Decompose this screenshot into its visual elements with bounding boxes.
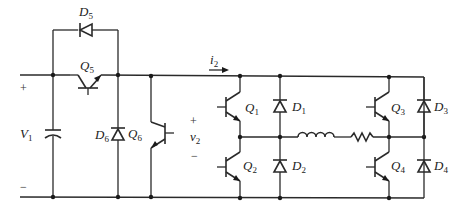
transistor-q3: Q3 — [366, 92, 405, 121]
d1-label: D1 — [291, 99, 306, 116]
q2-label: Q2 — [243, 158, 257, 175]
q1-label: Q1 — [245, 100, 259, 117]
v2-label: v2 — [190, 129, 200, 146]
i2-label: i2 — [210, 52, 218, 69]
source-v1: + V1 − — [20, 81, 32, 194]
q4-label: Q4 — [391, 158, 405, 175]
transistor-q4: Q4 — [366, 152, 405, 181]
v1-minus-sign: − — [20, 180, 27, 194]
d5-label: D5 — [78, 4, 93, 21]
inductor — [298, 133, 334, 138]
transistor-q1: Q1 — [217, 92, 259, 121]
q6-label: Q6 — [128, 126, 142, 143]
d6-label: D6 — [94, 127, 109, 144]
diode-d6: D6 — [94, 127, 125, 144]
d4-label: D4 — [433, 158, 448, 175]
v2-minus-sign: − — [191, 149, 198, 163]
q5-label: Q5 — [80, 58, 94, 75]
v2-plus-sign: + — [190, 114, 197, 128]
diode-d5: D5 — [78, 4, 93, 37]
transistor-q2: Q2 — [217, 152, 257, 181]
transistor-q5: Q5 — [70, 58, 101, 95]
diode-d1: D1 — [273, 99, 306, 116]
q3-label: Q3 — [391, 100, 405, 117]
resistor — [351, 133, 373, 141]
transistor-q6: Q6 — [128, 122, 174, 148]
d2-label: D2 — [291, 158, 306, 175]
circuit-diagram: + V1 − D5 Q5 D6 Q6 + — [0, 0, 469, 216]
v1-plus-sign: + — [20, 81, 27, 95]
diode-d2: D2 — [273, 158, 306, 175]
output-voltage-v2: + v2 − — [190, 114, 200, 163]
d3-label: D3 — [433, 99, 448, 116]
arrow-right-icon — [222, 67, 229, 73]
current-i2: i2 — [209, 52, 229, 73]
v1-label: V1 — [20, 126, 32, 143]
wires — [20, 30, 424, 198]
diode-d4: D4 — [417, 158, 448, 175]
diode-d3: D3 — [417, 99, 448, 137]
